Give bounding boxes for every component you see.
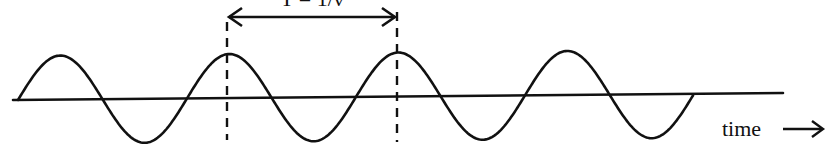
- arrow-right-icon: [783, 121, 823, 137]
- sine-wave: [18, 51, 693, 143]
- period-label: T = 1/ν: [280, 0, 344, 11]
- wave-period-diagram: T = 1/ν time: [0, 0, 830, 152]
- time-axis-label: time: [722, 116, 761, 141]
